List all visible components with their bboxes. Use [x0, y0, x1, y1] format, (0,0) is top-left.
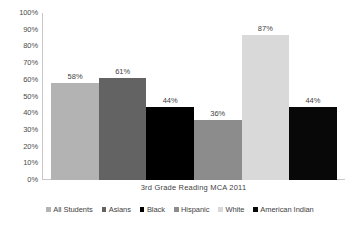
legend-swatch-icon: [102, 207, 107, 212]
bar-all-students: [51, 83, 99, 180]
legend-item-hispanic[interactable]: Hispanic: [174, 205, 209, 214]
y-axis-tick-label: 20%: [0, 143, 38, 151]
bar-value-label: 36%: [194, 109, 242, 118]
x-axis-title: 3rd Grade Reading MCA 2011: [42, 183, 345, 193]
legend-item-asians[interactable]: Asians: [102, 205, 131, 214]
y-axis-tick-label: 40%: [0, 109, 38, 117]
y-axis: 100%90%80%70%60%50%40%30%20%10%0%: [0, 0, 38, 196]
y-axis-tick-label: 30%: [0, 126, 38, 134]
legend-label: Hispanic: [181, 205, 209, 214]
chart-legend: All StudentsAsiansBlackHispanicWhiteAmer…: [0, 205, 360, 214]
legend-label: All Students: [53, 205, 92, 214]
bar-value-label: 44%: [289, 96, 337, 105]
legend-label: Black: [147, 205, 165, 214]
bar-black: [146, 107, 194, 180]
legend-swatch-icon: [218, 207, 223, 212]
bar-chart: 100%90%80%70%60%50%40%30%20%10%0% 58%61%…: [0, 0, 360, 228]
bar-value-label: 61%: [99, 67, 147, 76]
y-axis-tick-label: 70%: [0, 59, 38, 67]
legend-item-white[interactable]: White: [218, 205, 244, 214]
legend-item-all-students[interactable]: All Students: [46, 205, 92, 214]
legend-item-american-indian[interactable]: American Indian: [253, 205, 313, 214]
legend-label: White: [225, 205, 244, 214]
y-axis-tick-label: 100%: [0, 9, 38, 17]
bar-value-label: 44%: [146, 96, 194, 105]
bar-american-indian: [289, 107, 337, 180]
y-axis-tick-label: 90%: [0, 26, 38, 34]
bar-hispanic: [194, 120, 242, 180]
bar-value-label: 58%: [51, 72, 99, 81]
bar-white: [242, 35, 290, 180]
y-axis-tick-label: 60%: [0, 76, 38, 84]
bars-layer: 58%61%44%36%87%44%: [43, 13, 345, 180]
bar-value-label: 87%: [242, 24, 290, 33]
y-axis-tick-label: 0%: [0, 176, 38, 184]
legend-swatch-icon: [253, 207, 258, 212]
y-axis-tick-label: 50%: [0, 93, 38, 101]
bar-asians: [99, 78, 147, 180]
legend-swatch-icon: [174, 207, 179, 212]
y-axis-tick-label: 80%: [0, 42, 38, 50]
y-axis-tick-label: 10%: [0, 159, 38, 167]
legend-swatch-icon: [46, 207, 51, 212]
legend-item-black[interactable]: Black: [140, 205, 165, 214]
legend-label: American Indian: [260, 205, 313, 214]
legend-swatch-icon: [140, 207, 145, 212]
legend-label: Asians: [109, 205, 131, 214]
